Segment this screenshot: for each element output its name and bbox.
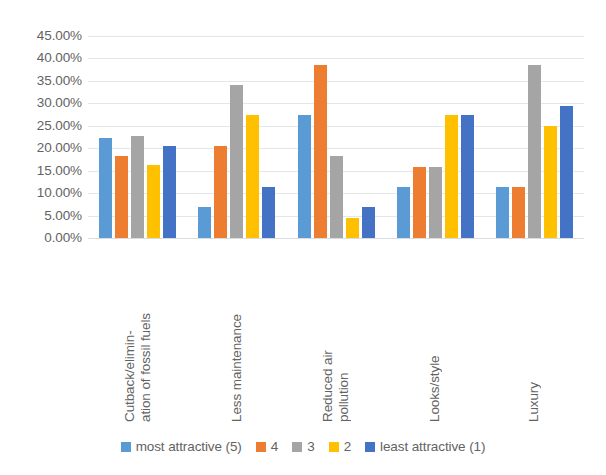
x-axis-category-label: Less maintenance bbox=[229, 242, 245, 422]
y-axis-tick-label: 35.00% bbox=[10, 74, 82, 87]
legend-item[interactable]: 2 bbox=[329, 440, 351, 454]
y-axis-tick-label: 5.00% bbox=[10, 209, 82, 222]
legend-item[interactable]: most attractive (5) bbox=[121, 440, 242, 454]
x-axis-category-label: pollution bbox=[336, 242, 352, 422]
legend-swatch-icon bbox=[256, 442, 266, 452]
bar[interactable] bbox=[214, 146, 227, 238]
bar-group bbox=[88, 36, 187, 238]
bar-groups bbox=[88, 36, 584, 238]
y-axis-tick-label: 40.00% bbox=[10, 51, 82, 64]
legend-label: 2 bbox=[344, 440, 351, 454]
x-axis-category-lines: Cutback/elimin-ation of fossil fuels bbox=[122, 242, 154, 422]
y-axis: 45.00%40.00%35.00%30.00%25.00%20.00%15.0… bbox=[10, 28, 82, 244]
x-axis-category-label: Reduced air bbox=[320, 242, 336, 422]
bar[interactable] bbox=[230, 85, 243, 238]
x-axis-category-lines: Luxury bbox=[526, 242, 542, 422]
y-axis-tick-label: 15.00% bbox=[10, 164, 82, 177]
bar[interactable] bbox=[346, 218, 359, 238]
bar[interactable] bbox=[163, 146, 176, 238]
x-axis-category: Reduced airpollution bbox=[286, 242, 385, 422]
bar[interactable] bbox=[198, 207, 211, 238]
bar[interactable] bbox=[397, 187, 410, 238]
legend-swatch-icon bbox=[121, 442, 131, 452]
bar[interactable] bbox=[362, 207, 375, 238]
x-axis-category: Less maintenance bbox=[187, 242, 286, 422]
bar[interactable] bbox=[544, 126, 557, 238]
legend-item[interactable]: 3 bbox=[292, 440, 314, 454]
legend-swatch-icon bbox=[292, 442, 302, 452]
x-axis-category-label: Luxury bbox=[526, 242, 542, 422]
legend-label: 3 bbox=[307, 440, 314, 454]
x-axis: Cutback/elimin-ation of fossil fuelsLess… bbox=[88, 242, 584, 422]
y-axis-tick-label: 25.00% bbox=[10, 119, 82, 132]
y-axis-tick-label: 10.00% bbox=[10, 186, 82, 199]
x-axis-category-label: Cutback/elimin- bbox=[122, 242, 138, 422]
bar[interactable] bbox=[131, 136, 144, 238]
plot-area bbox=[88, 36, 584, 238]
bar[interactable] bbox=[115, 156, 128, 238]
x-axis-category: Luxury bbox=[485, 242, 584, 422]
bar-group bbox=[485, 36, 584, 238]
legend-item[interactable]: least attractive (1) bbox=[365, 440, 485, 454]
legend-label: most attractive (5) bbox=[136, 440, 242, 454]
bar[interactable] bbox=[262, 187, 275, 238]
y-axis-tick-label: 20.00% bbox=[10, 141, 82, 154]
bar[interactable] bbox=[461, 115, 474, 238]
x-axis-category: Cutback/elimin-ation of fossil fuels bbox=[88, 242, 187, 422]
bar[interactable] bbox=[512, 187, 525, 238]
y-axis-tick-label: 0.00% bbox=[10, 231, 82, 244]
x-axis-category-lines: Less maintenance bbox=[229, 242, 245, 422]
x-axis-category-lines: Reduced airpollution bbox=[320, 242, 352, 422]
x-axis-category-lines: Looks/style bbox=[427, 242, 443, 422]
chart-legend: most attractive (5)432least attractive (… bbox=[0, 436, 606, 458]
bar[interactable] bbox=[330, 156, 343, 238]
legend-label: 4 bbox=[271, 440, 278, 454]
bar[interactable] bbox=[99, 138, 112, 238]
y-axis-tick-label: 30.00% bbox=[10, 96, 82, 109]
x-axis-category: Looks/style bbox=[386, 242, 485, 422]
bar-group bbox=[386, 36, 485, 238]
x-axis-category-label: Looks/style bbox=[427, 242, 443, 422]
bar[interactable] bbox=[413, 167, 426, 238]
legend-swatch-icon bbox=[365, 442, 375, 452]
legend-label: least attractive (1) bbox=[380, 440, 485, 454]
bar-group bbox=[286, 36, 385, 238]
bar[interactable] bbox=[528, 65, 541, 238]
bar[interactable] bbox=[246, 115, 259, 238]
axis-baseline bbox=[88, 238, 584, 239]
bar-group bbox=[187, 36, 286, 238]
bar[interactable] bbox=[429, 167, 442, 238]
bar[interactable] bbox=[314, 65, 327, 238]
plot-wrapper: 45.00%40.00%35.00%30.00%25.00%20.00%15.0… bbox=[0, 0, 606, 430]
y-axis-tick-label: 45.00% bbox=[10, 29, 82, 42]
x-axis-category-label: ation of fossil fuels bbox=[138, 242, 154, 422]
bar[interactable] bbox=[445, 115, 458, 238]
bar-chart: 45.00%40.00%35.00%30.00%25.00%20.00%15.0… bbox=[0, 0, 606, 475]
bar[interactable] bbox=[298, 115, 311, 238]
bar[interactable] bbox=[496, 187, 509, 238]
legend-item[interactable]: 4 bbox=[256, 440, 278, 454]
bar[interactable] bbox=[560, 106, 573, 238]
legend-swatch-icon bbox=[329, 442, 339, 452]
bar[interactable] bbox=[147, 165, 160, 238]
